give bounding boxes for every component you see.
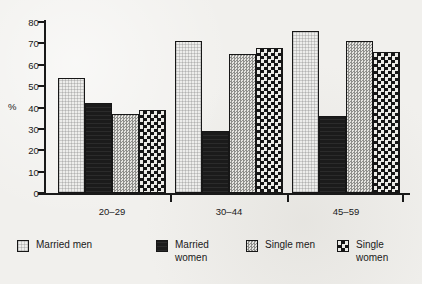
bar xyxy=(319,116,346,193)
bar xyxy=(139,110,166,193)
legend-item[interactable]: Single women xyxy=(337,239,409,264)
x-group-label: 30–44 xyxy=(216,206,242,217)
bar xyxy=(346,41,373,193)
chart-legend: Married menMarried womenSingle menSingle… xyxy=(17,239,409,279)
checkerboard-swatch xyxy=(337,240,349,252)
bar-chart: 01020304050607080 20–2930–4445–59 % Marr… xyxy=(0,0,422,284)
y-tick-label: 70 xyxy=(28,38,39,49)
plot-area: 01020304050607080 20–2930–4445–59 xyxy=(44,20,410,195)
y-tick-label: 30 xyxy=(28,123,39,134)
y-tick-label: 10 xyxy=(28,166,39,177)
bar xyxy=(373,52,400,193)
y-tick-label: 80 xyxy=(28,17,39,28)
gray-dotted-swatch xyxy=(246,240,258,252)
bar xyxy=(112,114,139,193)
legend-item-label: Single women xyxy=(356,239,409,264)
y-tick-label: 50 xyxy=(28,81,39,92)
y-axis-unit-label: % xyxy=(8,101,16,112)
legend-item[interactable]: Married men xyxy=(17,239,92,252)
solid-dark-swatch xyxy=(156,240,168,252)
bar xyxy=(58,78,85,193)
bar xyxy=(202,131,229,193)
legend-item-label: Married women xyxy=(175,239,209,264)
x-axis-line xyxy=(38,193,410,195)
y-tick-label: 0 xyxy=(34,188,39,199)
light-stipple-swatch xyxy=(17,240,29,252)
y-tick-mark xyxy=(38,171,46,173)
y-tick-mark xyxy=(38,128,46,130)
y-tick-mark xyxy=(38,21,46,23)
bar xyxy=(256,48,283,193)
legend-item[interactable]: Married women xyxy=(156,239,209,264)
x-group-separator xyxy=(287,193,289,202)
y-tick-mark xyxy=(38,192,46,194)
y-tick-label: 40 xyxy=(28,102,39,113)
x-group-separator xyxy=(170,193,172,202)
bar xyxy=(292,31,319,193)
y-tick-label: 20 xyxy=(28,145,39,156)
legend-item-label: Married men xyxy=(36,239,92,252)
x-axis-end-tick xyxy=(402,193,404,202)
x-group-label: 20–29 xyxy=(99,206,125,217)
y-tick-mark xyxy=(38,85,46,87)
legend-item-label: Single men xyxy=(265,239,315,252)
y-tick-label: 60 xyxy=(28,59,39,70)
x-group-label: 45–59 xyxy=(333,206,359,217)
bar xyxy=(229,54,256,193)
legend-item[interactable]: Single men xyxy=(246,239,315,252)
y-tick-mark xyxy=(38,149,46,151)
bar xyxy=(85,103,112,193)
y-tick-mark xyxy=(38,107,46,109)
y-tick-mark xyxy=(38,42,46,44)
bar xyxy=(175,41,202,193)
y-tick-mark xyxy=(38,64,46,66)
